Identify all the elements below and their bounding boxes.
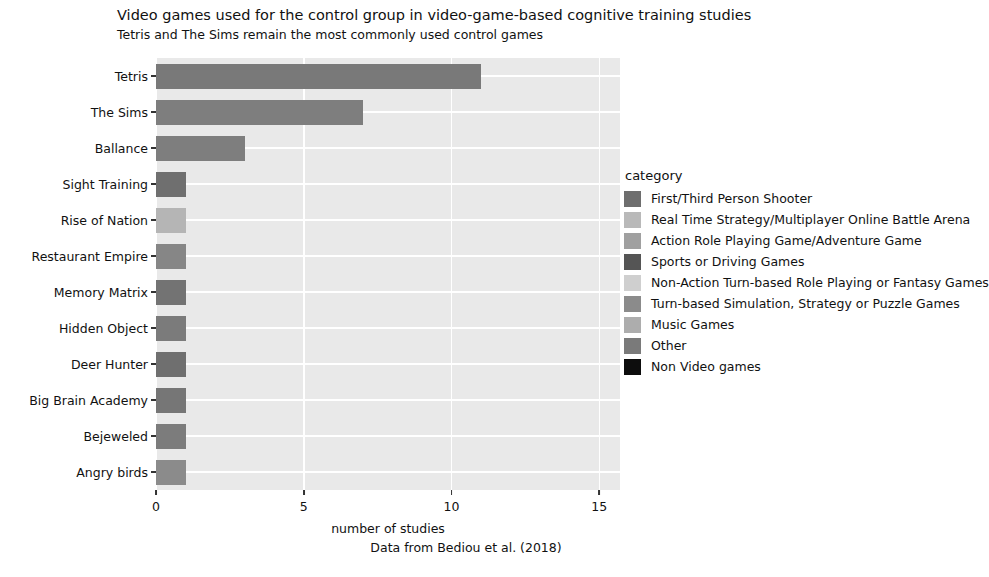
bar-sight-training[interactable]	[156, 172, 186, 197]
y-tick-label: Sight Training	[63, 177, 151, 192]
y-tick-label: Memory Matrix	[54, 285, 151, 300]
y-tick-mark	[151, 111, 156, 113]
x-tick-15: 15	[591, 490, 607, 514]
bar-deer-hunter[interactable]	[156, 352, 186, 377]
legend-item-6[interactable]: Music Games	[624, 314, 976, 335]
bar-restaurant-empire[interactable]	[156, 244, 186, 269]
bar-ballance[interactable]	[156, 136, 245, 161]
legend-label: First/Third Person Shooter	[651, 191, 812, 206]
y-tick-big-brain-academy: Big Brain Academy	[29, 393, 156, 407]
y-tick-bejeweled: Bejeweled	[84, 429, 156, 443]
chart-subtitle: Tetris and The Sims remain the most comm…	[117, 26, 877, 43]
y-tick-label: Hidden Object	[59, 321, 151, 336]
legend-swatch-icon	[624, 191, 641, 207]
y-tick-hidden-object: Hidden Object	[59, 321, 156, 335]
bar-hidden-object[interactable]	[156, 316, 186, 341]
x-tick-label: 15	[591, 499, 607, 514]
legend-label: Action Role Playing Game/Adventure Game	[651, 233, 922, 248]
y-tick-label: Bejeweled	[84, 429, 151, 444]
x-tick-0: 0	[152, 490, 160, 514]
y-tick-deer-hunter: Deer Hunter	[71, 357, 156, 371]
bar-the-sims[interactable]	[156, 100, 363, 125]
x-tick-label: 0	[152, 499, 160, 514]
y-tick-mark	[151, 471, 156, 473]
y-tick-rise-of-nation: Rise of Nation	[61, 213, 156, 227]
chart-caption: Data from Bediou et al. (2018)	[156, 540, 776, 555]
x-axis: 051015	[156, 490, 620, 520]
x-tick-mark	[303, 490, 305, 495]
y-tick-sight-training: Sight Training	[63, 177, 156, 191]
legend-label: Other	[651, 338, 687, 353]
y-tick-label: Angry birds	[76, 465, 151, 480]
x-axis-label: number of studies	[156, 521, 620, 536]
y-tick-mark	[151, 327, 156, 329]
x-tick-mark	[155, 490, 157, 495]
legend-swatch-icon	[624, 212, 641, 228]
chart-title: Video games used for the control group i…	[117, 6, 877, 25]
bar-angry-birds[interactable]	[156, 460, 186, 485]
legend-label: Non Video games	[651, 359, 761, 374]
y-tick-mark	[151, 399, 156, 401]
y-tick-mark	[151, 435, 156, 437]
y-tick-label: Restaurant Empire	[32, 249, 151, 264]
y-tick-label: Tetris	[115, 69, 151, 84]
x-tick-10: 10	[444, 490, 460, 514]
y-tick-mark	[151, 363, 156, 365]
legend-swatch-icon	[624, 254, 641, 270]
y-tick-label: Deer Hunter	[71, 357, 151, 372]
y-tick-ballance: Ballance	[95, 141, 156, 155]
y-tick-label: Rise of Nation	[61, 213, 151, 228]
y-tick-tetris: Tetris	[115, 69, 156, 83]
y-tick-label: Big Brain Academy	[29, 393, 151, 408]
legend-item-3[interactable]: Sports or Driving Games	[624, 251, 976, 272]
y-tick-mark	[151, 75, 156, 77]
legend-swatch-icon	[624, 317, 641, 333]
y-tick-restaurant-empire: Restaurant Empire	[32, 249, 156, 263]
legend-swatch-icon	[624, 275, 641, 291]
bar-memory-matrix[interactable]	[156, 280, 186, 305]
legend-item-8[interactable]: Non Video games	[624, 356, 976, 377]
title-block: Video games used for the control group i…	[117, 6, 877, 43]
bar-rise-of-nation[interactable]	[156, 208, 186, 233]
y-tick-mark	[151, 219, 156, 221]
y-tick-the-sims: The Sims	[91, 105, 156, 119]
legend-item-1[interactable]: Real Time Strategy/Multiplayer Online Ba…	[624, 209, 976, 230]
legend-swatch-icon	[624, 338, 641, 354]
x-tick-label: 5	[300, 499, 308, 514]
y-tick-mark	[151, 183, 156, 185]
x-tick-mark	[599, 490, 601, 495]
legend-items: First/Third Person ShooterReal Time Stra…	[624, 188, 976, 377]
legend-label: Real Time Strategy/Multiplayer Online Ba…	[651, 212, 970, 227]
legend-label: Turn-based Simulation, Strategy or Puzzl…	[651, 296, 960, 311]
legend-swatch-icon	[624, 359, 641, 375]
legend-item-7[interactable]: Other	[624, 335, 976, 356]
plot-area	[156, 58, 620, 490]
bars-layer	[156, 58, 620, 490]
legend: category First/Third Person ShooterReal …	[624, 168, 976, 377]
legend-label: Music Games	[651, 317, 734, 332]
legend-item-4[interactable]: Non-Action Turn-based Role Playing or Fa…	[624, 272, 976, 293]
y-tick-memory-matrix: Memory Matrix	[54, 285, 156, 299]
y-tick-angry-birds: Angry birds	[76, 465, 156, 479]
x-tick-mark	[451, 490, 453, 495]
legend-label: Sports or Driving Games	[651, 254, 804, 269]
bar-big-brain-academy[interactable]	[156, 388, 186, 413]
bar-bejeweled[interactable]	[156, 424, 186, 449]
legend-label: Non-Action Turn-based Role Playing or Fa…	[651, 275, 989, 290]
y-axis: TetrisThe SimsBallanceSight TrainingRise…	[0, 58, 156, 490]
legend-swatch-icon	[624, 296, 641, 312]
y-tick-label: Ballance	[95, 141, 151, 156]
legend-item-5[interactable]: Turn-based Simulation, Strategy or Puzzl…	[624, 293, 976, 314]
x-tick-5: 5	[300, 490, 308, 514]
legend-swatch-icon	[624, 233, 641, 249]
y-tick-mark	[151, 147, 156, 149]
y-tick-label: The Sims	[91, 105, 151, 120]
legend-item-0[interactable]: First/Third Person Shooter	[624, 188, 976, 209]
x-tick-label: 10	[444, 499, 460, 514]
y-tick-mark	[151, 291, 156, 293]
legend-item-2[interactable]: Action Role Playing Game/Adventure Game	[624, 230, 976, 251]
legend-title: category	[625, 168, 976, 183]
y-tick-mark	[151, 255, 156, 257]
bar-tetris[interactable]	[156, 64, 481, 89]
